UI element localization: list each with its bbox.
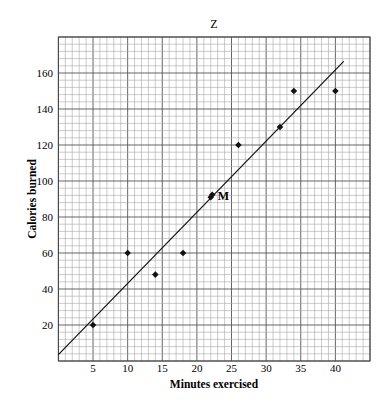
- x-axis-label: Minutes exercised: [170, 378, 259, 390]
- x-tick-label: 25: [226, 362, 238, 374]
- scatter-chart: Z 510152025303540 20406080100120140160 M…: [0, 0, 387, 414]
- y-tick-label: 140: [37, 103, 54, 115]
- data-point-diamond: [235, 142, 242, 149]
- y-tick-label: 160: [37, 67, 54, 79]
- data-point-diamond: [180, 250, 187, 257]
- x-tick-label: 35: [295, 362, 307, 374]
- y-tick-label: 100: [37, 175, 54, 187]
- annotations: M: [218, 189, 229, 203]
- data-point-diamond: [332, 88, 339, 95]
- y-tick-label: 80: [42, 211, 54, 223]
- data-points: [90, 88, 339, 329]
- data-point-diamond: [291, 88, 298, 95]
- point-label-m: M: [218, 189, 229, 203]
- data-point-diamond: [152, 271, 159, 278]
- chart-title: Z: [210, 17, 217, 31]
- y-axis-ticks: 20406080100120140160: [37, 67, 54, 331]
- x-tick-label: 20: [191, 362, 203, 374]
- data-point-diamond: [90, 322, 97, 329]
- y-tick-label: 60: [42, 247, 54, 259]
- x-tick-label: 40: [330, 362, 342, 374]
- x-axis-ticks: 510152025303540: [90, 362, 341, 374]
- x-tick-label: 15: [157, 362, 169, 374]
- grid: [58, 37, 370, 361]
- x-tick-label: 10: [122, 362, 134, 374]
- y-tick-label: 120: [37, 139, 54, 151]
- data-point-diamond: [124, 250, 131, 257]
- y-tick-label: 40: [42, 283, 54, 295]
- y-tick-label: 20: [42, 319, 54, 331]
- x-tick-label: 5: [90, 362, 96, 374]
- x-tick-label: 30: [261, 362, 273, 374]
- y-axis-label: Calories burned: [26, 159, 38, 239]
